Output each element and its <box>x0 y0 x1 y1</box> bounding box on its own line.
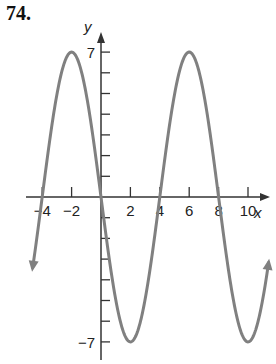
y-axis-arrow-icon <box>97 32 105 43</box>
x-tick-label: 2 <box>126 202 134 219</box>
x-ticks: −4−2246810 <box>34 187 257 219</box>
x-axis-arrow-icon <box>260 193 270 201</box>
chart: 74. −4−2246810 7−7 x y <box>0 0 276 364</box>
curve-right-arrow-icon <box>263 259 273 271</box>
y-axis-label: y <box>83 18 93 35</box>
curve-left-arrow-icon <box>29 260 39 272</box>
problem-number: 74. <box>6 2 31 24</box>
y-tick-label: −7 <box>78 334 95 351</box>
x-tick-label: −2 <box>63 202 80 219</box>
axes <box>26 32 270 360</box>
x-axis-label: x <box>253 204 262 221</box>
x-tick-label: 6 <box>185 202 193 219</box>
y-tick-label: 7 <box>87 44 95 61</box>
